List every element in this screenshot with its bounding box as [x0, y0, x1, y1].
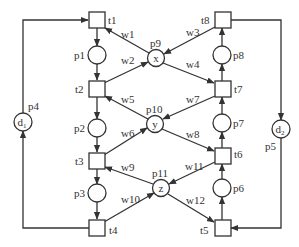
transition-t1	[89, 12, 105, 28]
transition-t7	[215, 81, 231, 97]
weight-w12: w12	[186, 194, 205, 206]
transition-t8	[215, 12, 231, 28]
weight-w4: w4	[186, 58, 200, 70]
label-t2: t2	[75, 83, 84, 95]
transition-t3	[89, 153, 105, 169]
place-p1	[88, 46, 106, 64]
inner-label-z: z	[159, 182, 164, 194]
weight-w8: w8	[186, 128, 200, 140]
weight-w10: w10	[121, 193, 140, 205]
place-p6	[213, 179, 231, 197]
label-p10: p10	[146, 103, 163, 115]
place-p7	[213, 114, 231, 132]
weight-w2: w2	[121, 54, 134, 66]
label-p11: p11	[152, 167, 168, 179]
label-p7: p7	[233, 117, 245, 129]
weight-w9: w9	[121, 161, 135, 173]
transition-t5	[215, 220, 231, 236]
petri-net-diagram: t1 t2 t3 t4 t5 t6 t7 t8 p1 p2 p3 p4 p5 p…	[0, 0, 299, 247]
place-p3	[88, 184, 106, 202]
weight-w3: w3	[186, 26, 200, 38]
label-t3: t3	[75, 155, 84, 167]
transition-t6	[215, 148, 231, 164]
label-t7: t7	[234, 83, 243, 95]
weight-w11: w11	[185, 160, 204, 172]
label-t8: t8	[201, 14, 210, 26]
label-p1: p1	[74, 49, 85, 61]
label-p5: p5	[265, 140, 277, 152]
weight-w7: w7	[186, 93, 200, 105]
weight-w6: w6	[121, 127, 135, 139]
arc-t4-d1	[23, 131, 89, 228]
label-t5: t5	[200, 224, 209, 236]
label-p2: p2	[74, 122, 85, 134]
label-p6: p6	[233, 182, 245, 194]
arc-t8-d2	[230, 20, 281, 120]
transition-t2	[89, 81, 105, 97]
weight-w1: w1	[121, 28, 134, 40]
place-p8	[213, 46, 231, 64]
inner-label-y: y	[152, 118, 158, 130]
label-p8: p8	[233, 49, 245, 61]
label-p4: p4	[28, 100, 40, 112]
transition-t4	[89, 220, 105, 236]
label-p9: p9	[150, 37, 162, 49]
label-t4: t4	[109, 224, 118, 236]
inner-label-x: x	[153, 52, 159, 64]
label-t6: t6	[234, 148, 243, 160]
weight-w5: w5	[121, 93, 135, 105]
label-t1: t1	[108, 14, 117, 26]
place-p2	[88, 119, 106, 137]
label-p3: p3	[74, 187, 86, 199]
